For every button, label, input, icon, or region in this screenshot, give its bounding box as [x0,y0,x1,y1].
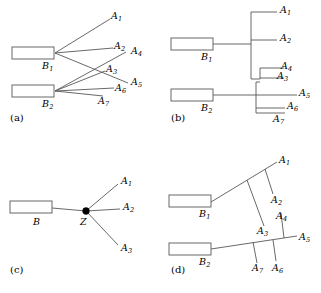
hub-node-z [83,208,90,215]
edge-b2-a6 [55,88,114,91]
label-a3: A3 [277,71,288,81]
label-a7: A7 [273,114,284,124]
panel-tag-a: (a) [10,113,24,123]
label-a2: A2 [280,33,291,43]
label-a1: A1 [279,155,290,165]
panel-tag-b: (b) [171,113,185,123]
panel-tag-d: (d) [171,265,185,275]
label-a2: A2 [114,41,125,51]
label-a4: A4 [276,211,287,221]
label-b: B [33,217,40,227]
label-b1: B1 [199,209,210,219]
edge-b1-a2 [55,48,113,53]
label-a1: A1 [280,5,291,15]
label-a3: A3 [257,226,268,236]
source-box-b [10,201,52,213]
label-a5: A5 [299,88,310,98]
edge-b2-a7 [253,242,257,263]
source-box-b2 [171,89,213,101]
edge-b2-a6 [273,240,276,261]
label-z: Z [80,217,87,227]
panel-b-graphics [161,0,321,146]
edge-b2-a7 [55,91,103,96]
edge-b1-a2 [265,169,273,194]
panel-a: B1 B2 A1 A2 A3 A4 A5 A6 A7 (a) [0,0,160,146]
edge-b1-a3 [247,180,264,226]
label-a6: A6 [272,263,283,273]
label-a1: A1 [121,176,132,186]
edge-z-a3 [86,211,118,245]
label-a5: A5 [131,77,142,87]
edge-z-a2 [86,209,120,211]
label-a1: A1 [111,11,122,21]
edge-b1-trunk-a1 [211,162,277,202]
label-a3: A3 [121,243,132,253]
label-a4: A4 [131,46,142,56]
label-b2: B2 [42,99,53,109]
source-box-b1 [12,47,54,59]
panel-b: B1 B2 A1 A2 A3 A4 A5 A6 A7 (b) [161,0,321,146]
figure-canvas: B1 B2 A1 A2 A3 A4 A5 A6 A7 (a) [0,0,321,293]
label-a6: A6 [287,101,298,111]
source-box-b2 [12,85,54,97]
label-b2: B2 [199,257,210,267]
edge-b-z [52,208,86,211]
panel-a-graphics [0,0,160,146]
label-b1: B1 [201,52,212,62]
edge-b2-a3 [55,71,105,91]
label-a2: A2 [271,195,282,205]
source-box-b1 [171,38,213,50]
source-box-b2 [169,243,211,255]
label-a7: A7 [98,96,109,106]
label-a3: A3 [106,64,117,74]
panel-d: B1 B2 A1 A2 A3 A4 A5 A6 A7 (d) [161,147,321,293]
label-a5: A5 [299,232,310,242]
source-box-b1 [169,195,211,207]
panel-tag-c: (c) [10,265,23,275]
label-b1: B1 [42,61,53,71]
panel-c: B Z A1 A2 A3 (c) [0,147,160,293]
edge-b1-a1 [55,19,110,53]
label-b2: B2 [201,103,212,113]
label-a4: A4 [281,61,292,71]
label-a6: A6 [115,83,126,93]
edge-z-a1 [86,184,118,211]
label-a7: A7 [252,263,263,273]
label-a2: A2 [123,202,134,212]
